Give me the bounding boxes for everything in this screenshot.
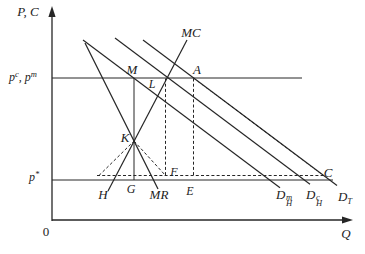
label-mc: MC xyxy=(181,26,201,39)
label-dhc: DcH xyxy=(306,188,322,205)
label-dt: DT xyxy=(338,190,352,203)
economics-diagram: P, Cpc, pmp*0QMCMRMALKFGHECDmHDcHDT xyxy=(0,0,365,254)
label-point-a: A xyxy=(193,63,201,76)
dashed-segment-HK xyxy=(99,141,134,176)
label-point-l: L xyxy=(149,78,156,90)
label-dhm: DmH xyxy=(276,188,292,205)
label-pc-pm: pc, pm xyxy=(9,71,37,83)
label-point-c: C xyxy=(324,166,333,179)
label-point-e: E xyxy=(186,185,193,197)
label-point-h: H xyxy=(98,188,107,201)
label-point-m: M xyxy=(127,63,138,76)
label-y-axis: P, C xyxy=(17,5,38,18)
label-origin: 0 xyxy=(43,225,50,238)
label-point-k: K xyxy=(121,131,130,144)
label-point-f: F xyxy=(170,166,177,178)
label-mr: MR xyxy=(150,188,169,201)
x-axis-arrow xyxy=(342,216,353,223)
dashed-segment-KF xyxy=(134,141,166,176)
label-p-star: p* xyxy=(29,171,39,183)
label-x-axis: Q xyxy=(341,227,350,240)
dhm-demand-curve xyxy=(83,40,280,188)
y-axis-arrow xyxy=(48,6,55,17)
label-point-g: G xyxy=(127,183,136,195)
